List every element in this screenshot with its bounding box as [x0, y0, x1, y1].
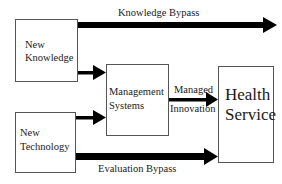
- new-knowledge-line1: New: [25, 39, 45, 52]
- health-service-line2: Service: [225, 105, 276, 125]
- managed-innovation-label-line1: Managed: [174, 85, 213, 96]
- health-service-box: Health Service: [218, 66, 274, 163]
- knowledge-bypass-arrow: [77, 17, 277, 33]
- new-knowledge-box: New Knowledge: [15, 19, 78, 82]
- health-service-line1: Health: [225, 85, 270, 105]
- knowledge-to-management-arrow: [78, 65, 106, 80]
- new-technology-line2: Technology: [20, 141, 69, 154]
- evaluation-bypass-label: Evaluation Bypass: [98, 164, 176, 175]
- new-technology-line1: New: [20, 127, 40, 140]
- knowledge-bypass-label: Knowledge Bypass: [118, 8, 199, 19]
- new-knowledge-line2: Knowledge: [25, 52, 73, 65]
- technology-to-management-arrow: [75, 110, 106, 125]
- new-technology-box: New Technology: [15, 112, 76, 173]
- management-systems-box: Management Systems: [106, 64, 169, 136]
- management-systems-line2: Systems: [109, 100, 144, 113]
- managed-innovation-label-line2: Innovation: [170, 104, 216, 115]
- innovation-pathway-diagram: New Knowledge New Technology Management …: [0, 0, 282, 184]
- management-systems-line1: Management: [109, 86, 164, 99]
